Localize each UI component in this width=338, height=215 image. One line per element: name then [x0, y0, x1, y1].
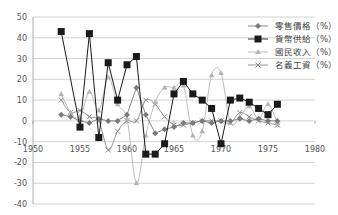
square-marker — [105, 59, 112, 66]
legend-label: 貨幣供給（%） — [275, 34, 337, 44]
triangle-marker — [87, 89, 93, 94]
triangle-marker — [209, 72, 215, 77]
series-line — [61, 32, 277, 155]
y-tick-label: 20 — [17, 75, 27, 84]
line-chart: 50403020100-10-20-30-40 1950195519601965… — [0, 0, 338, 215]
diamond-marker — [58, 112, 64, 118]
square-marker — [114, 97, 121, 104]
x-tick-label: 1950 — [23, 145, 43, 154]
gridlines — [33, 17, 315, 204]
legend-item-3: 名義工資（%） — [248, 60, 337, 70]
legend-label: 名義工資（%） — [275, 60, 337, 70]
y-tick-label: 10 — [17, 96, 27, 105]
square-marker — [236, 95, 243, 102]
triangle-marker — [218, 70, 224, 75]
square-marker — [95, 134, 102, 141]
cross-marker — [115, 129, 120, 134]
legend-item-0: 零售價格（%） — [248, 21, 337, 31]
y-axis: 50403020100-10-20-30-40 — [14, 13, 33, 209]
diamond-marker — [115, 118, 121, 124]
square-marker — [58, 28, 65, 35]
square-marker — [86, 30, 93, 37]
y-tick-label: -20 — [14, 158, 27, 167]
legend-item-1: 貨幣供給（%） — [248, 34, 337, 44]
square-marker — [77, 124, 84, 131]
x-tick-label: 1975 — [258, 145, 278, 154]
square-marker — [208, 105, 215, 112]
diamond-marker — [171, 124, 177, 130]
square-marker — [255, 105, 262, 112]
legend-label: 零售價格（%） — [275, 21, 337, 31]
square-marker — [227, 97, 234, 104]
legend-item-2: 國民收入（%） — [248, 47, 337, 57]
square-marker — [171, 90, 178, 97]
x-tick-label: 1960 — [117, 145, 137, 154]
cross-marker — [162, 114, 167, 119]
y-tick-label: 30 — [17, 55, 27, 64]
square-marker — [124, 61, 131, 68]
triangle-marker — [265, 101, 271, 106]
square-marker — [255, 36, 262, 43]
square-marker — [152, 151, 159, 158]
triangle-marker — [255, 49, 261, 54]
square-marker — [133, 53, 140, 60]
x-tick-label: 1980 — [305, 145, 325, 154]
square-marker — [246, 99, 253, 106]
y-tick-label: 40 — [17, 34, 27, 43]
square-marker — [142, 151, 149, 158]
y-tick-label: -40 — [14, 200, 27, 209]
x-tick-label: 1955 — [70, 145, 90, 154]
square-marker — [265, 111, 272, 118]
diamond-marker — [133, 85, 139, 91]
triangle-marker — [199, 128, 205, 133]
series-line — [61, 99, 277, 150]
series-0 — [58, 85, 280, 137]
square-marker — [180, 78, 187, 85]
y-tick-label: 50 — [17, 13, 27, 22]
square-marker — [274, 101, 281, 108]
plot-area — [58, 28, 281, 185]
square-marker — [218, 140, 225, 147]
square-marker — [189, 90, 196, 97]
legend: 零售價格（%）貨幣供給（%）國民收入（%）名義工資（%） — [248, 21, 337, 70]
y-tick-label: -30 — [14, 179, 27, 188]
square-marker — [199, 97, 206, 104]
triangle-marker — [58, 91, 64, 96]
square-marker — [161, 140, 168, 147]
diamond-marker — [143, 112, 149, 118]
diamond-marker — [105, 118, 111, 124]
series-2 — [58, 67, 280, 185]
legend-label: 國民收入（%） — [275, 47, 337, 57]
cross-marker — [87, 114, 92, 119]
triangle-marker — [190, 132, 196, 137]
diamond-marker — [255, 23, 261, 29]
diamond-marker — [152, 130, 158, 136]
y-tick-label: 0 — [22, 117, 27, 126]
